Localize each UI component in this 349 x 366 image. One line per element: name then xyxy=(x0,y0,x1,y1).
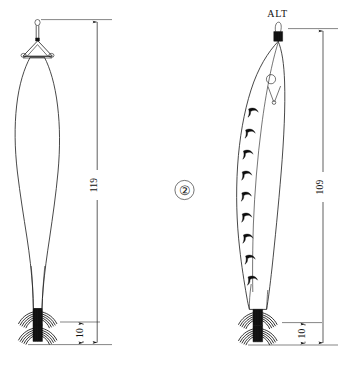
dimension-crown-left: 10 xyxy=(75,324,90,343)
squid-jig-technical-drawing: 119 10 ② ALT xyxy=(0,0,349,366)
hook-crown-icon xyxy=(19,325,57,344)
feeler-marking xyxy=(268,86,281,104)
figure-number-label: ② xyxy=(179,183,191,198)
hook-crown-icon xyxy=(239,326,277,345)
dimension-value-109: 109 xyxy=(315,180,325,195)
figure-number: ② xyxy=(175,180,194,199)
line-tie-loop-icon xyxy=(35,20,40,42)
dimension-total-length-left: 119 xyxy=(89,22,105,342)
dimension-value-10-left: 10 xyxy=(75,328,85,338)
front-view-group: 119 10 xyxy=(15,20,112,345)
jig-body-front xyxy=(15,58,59,309)
line-tie-loop-icon xyxy=(274,22,283,41)
alt-label: ALT xyxy=(267,8,287,19)
side-view-group: ALT xyxy=(237,8,338,345)
bridle-triangle-icon xyxy=(21,41,54,58)
dimension-value-10-right: 10 xyxy=(297,329,307,339)
barb-hook-icon xyxy=(241,108,258,285)
technical-drawing-canvas: 119 10 ② ALT xyxy=(0,0,349,366)
eye-circle-icon xyxy=(266,75,275,84)
dimension-total-length-right: 109 xyxy=(315,31,331,343)
dimension-crown-right: 10 xyxy=(297,324,312,343)
dimension-value-119: 119 xyxy=(89,178,99,193)
